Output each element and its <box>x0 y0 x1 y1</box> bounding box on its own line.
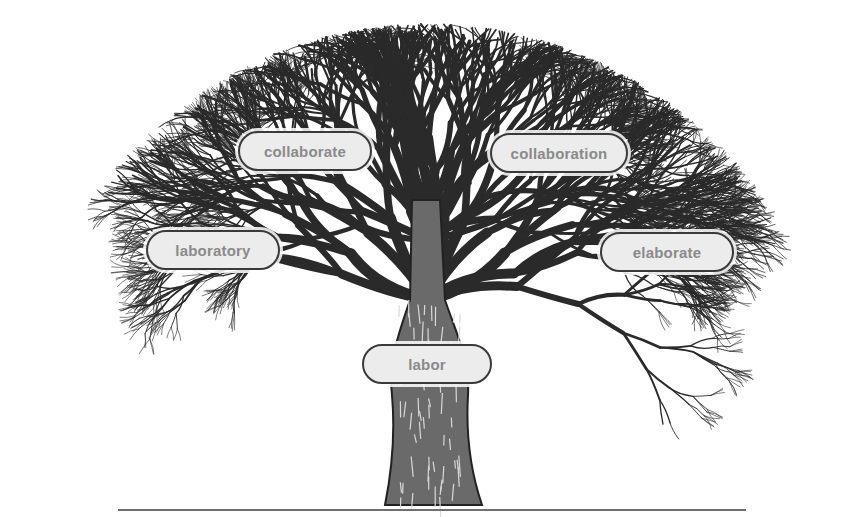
label-labor-root: labor <box>362 344 492 384</box>
label-text: elaborate <box>633 244 702 261</box>
label-text: laboratory <box>175 242 250 259</box>
label-text: collaboration <box>511 145 608 162</box>
label-elaborate: elaborate <box>600 232 734 272</box>
label-text: labor <box>408 356 446 373</box>
label-text: collaborate <box>264 143 346 160</box>
ground-line <box>118 509 746 511</box>
label-collaboration: collaboration <box>490 133 628 173</box>
label-laboratory: laboratory <box>146 230 280 270</box>
label-collaborate: collaborate <box>238 131 372 171</box>
